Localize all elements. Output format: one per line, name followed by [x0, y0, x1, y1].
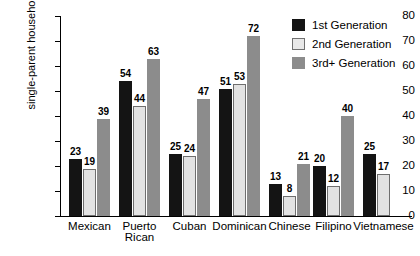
bar: [377, 174, 390, 217]
bar-value-label: 17: [372, 162, 396, 172]
legend-swatch-2nd-generation: [292, 38, 305, 50]
legend-label-1st-generation: 1st Generation: [312, 19, 387, 31]
chart-legend: 1st Generation 2nd Generation 3rd+ Gener…: [292, 16, 395, 73]
y-tick-0: [55, 216, 61, 217]
bar: [233, 84, 246, 217]
bar: [219, 89, 232, 217]
bar-group: 515372: [219, 16, 267, 216]
bar-group: 231939: [69, 16, 117, 216]
bar: [169, 154, 182, 217]
bar: [133, 106, 146, 216]
bar: [327, 186, 340, 216]
bar-value-label: 20: [308, 154, 332, 164]
legend-swatch-1st-generation: [292, 19, 305, 31]
bar: [69, 159, 82, 217]
bar: [97, 119, 110, 217]
legend-item-1st-generation: 1st Generation: [292, 16, 395, 33]
bar: [147, 59, 160, 217]
legend-label-2nd-generation: 2nd Generation: [312, 38, 391, 50]
bar: [183, 156, 196, 216]
x-axis-label-vietnamese: Vietnamese: [342, 221, 420, 232]
bar-group: 544463: [119, 16, 167, 216]
x-axis-line: [60, 216, 412, 217]
y-axis-title: single-parent households: [25, 0, 37, 123]
bar-value-label: 54: [114, 69, 138, 79]
bar-value-label: 72: [242, 24, 266, 34]
bar-value-label: 25: [358, 142, 382, 152]
legend-item-2nd-generation: 2nd Generation: [292, 35, 395, 52]
bar-value-label: 39: [92, 107, 116, 117]
bar-value-label: 47: [192, 87, 216, 97]
legend-label-3rd-plus-generation: 3rd+ Generation: [312, 57, 395, 69]
bar: [297, 164, 310, 217]
bar-value-label: 23: [64, 147, 88, 157]
bar-group: 252447: [169, 16, 217, 216]
bar-value-label: 13: [264, 172, 288, 182]
bar: [197, 99, 210, 217]
legend-item-3rd-plus-generation: 3rd+ Generation: [292, 54, 395, 71]
bar: [341, 116, 354, 216]
bar-value-label: 40: [336, 104, 360, 114]
bar: [83, 169, 96, 217]
bar: [283, 196, 296, 216]
bar-value-label: 63: [142, 47, 166, 57]
bar: [247, 36, 260, 216]
legend-swatch-3rd-plus-generation: [292, 57, 305, 69]
